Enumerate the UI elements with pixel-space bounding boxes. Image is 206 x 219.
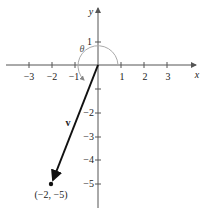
x-tick-label: −1 xyxy=(69,71,80,82)
x-tick-label: −3 xyxy=(24,71,35,82)
x-tick-label: 1 xyxy=(120,71,125,82)
y-tick-label: −3 xyxy=(83,131,94,142)
endpoint-label: (−2, −5) xyxy=(35,189,68,201)
theta-label: θ xyxy=(80,43,85,54)
plot-svg: −3 −2 −1 1 2 3 1 −2 −3 −4 −5 x y θ v (−2… xyxy=(0,0,206,219)
vector-label: v xyxy=(66,117,71,128)
endpoint-dot xyxy=(49,182,53,186)
x-tick-label: 3 xyxy=(166,71,171,82)
coordinate-plane-diagram: −3 −2 −1 1 2 3 1 −2 −3 −4 −5 x y θ v (−2… xyxy=(0,0,206,219)
y-axis-label: y xyxy=(88,6,94,17)
y-tick-label: −4 xyxy=(83,154,94,165)
y-tick-label: −5 xyxy=(83,178,94,189)
y-tick-label: −2 xyxy=(83,107,94,118)
x-tick-label: −2 xyxy=(47,71,58,82)
x-tick-label: 2 xyxy=(143,71,148,82)
y-tick-label: 1 xyxy=(87,36,92,47)
x-axis-label: x xyxy=(194,69,200,80)
